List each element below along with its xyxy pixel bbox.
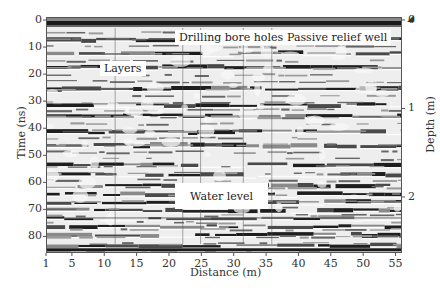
y-tick-label: 20	[18, 68, 42, 79]
x-tick-label: 20	[159, 258, 179, 269]
x-tick-label: 40	[288, 258, 308, 269]
annotation-passive-relief-well: Passive relief well	[283, 30, 391, 45]
y-tick-label: 0	[18, 14, 42, 25]
radargram-plot-area	[46, 17, 402, 253]
annotation-water-level: Water level	[175, 183, 268, 209]
depth-origin-marker-icon: ◢	[407, 14, 414, 23]
x-tick-label: 55	[386, 258, 406, 269]
y2-tick-label: 2	[408, 191, 422, 202]
y2-axis-title: Depth (m)	[424, 95, 437, 155]
x-tick-label: 50	[353, 258, 373, 269]
annotation-drilling-bore-holes: Drilling bore holes	[175, 30, 287, 45]
annotation-layers: Layers	[100, 61, 146, 76]
y-tick-label: 60	[18, 176, 42, 187]
x-tick-label: 15	[127, 258, 147, 269]
x-tick-label: 5	[62, 258, 82, 269]
y-tick-label: 80	[18, 230, 42, 241]
y2-tick-label: 1	[408, 102, 422, 113]
x-axis-title: Distance (m)	[190, 266, 261, 279]
x-tick-label: 10	[94, 258, 114, 269]
radargram-image	[47, 18, 402, 253]
x-tick-label: 45	[321, 258, 341, 269]
radargram-figure: 01020304050607080 1510152025303540455055…	[0, 0, 440, 290]
x-tick-label: 1	[36, 258, 56, 269]
y-axis-title: Time (ns)	[15, 106, 28, 160]
y-tick-label: 70	[18, 203, 42, 214]
y-tick-label: 10	[18, 41, 42, 52]
